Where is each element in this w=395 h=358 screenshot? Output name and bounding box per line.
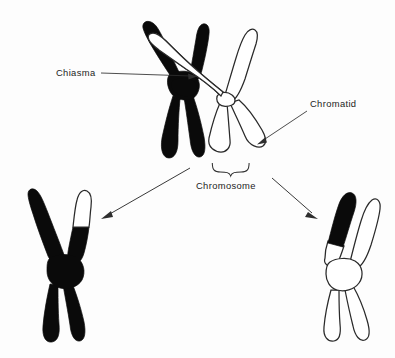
chromosome-crossover-diagram: Chiasma Chromatid Chromosome <box>0 0 395 358</box>
chiasma-label: Chiasma <box>56 67 96 78</box>
diagram-canvas: Chiasma Chromatid Chromosome <box>0 0 395 358</box>
chromosome-label: Chromosome <box>196 180 256 191</box>
right-result-centromere <box>326 258 362 290</box>
chromatid-label: Chromatid <box>310 98 356 109</box>
left-result-centromere <box>47 254 84 288</box>
